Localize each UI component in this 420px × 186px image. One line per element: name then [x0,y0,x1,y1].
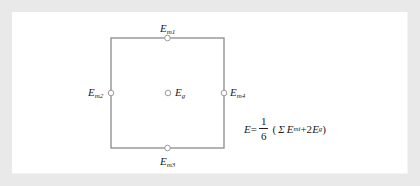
formula-plus: +2 [300,123,312,135]
point-em1-icon [165,35,171,41]
square-diagram [0,0,420,186]
formula-term2: E [312,123,319,135]
fraction-numerator: 1 [259,116,269,129]
formula-equals: = [251,123,257,135]
formula-lhs: E [244,123,251,135]
fraction-denominator: 6 [261,129,267,142]
label-em1: Em1 [160,23,175,36]
formula-term1-sub: mi [293,125,300,133]
label-em4: Em4 [230,87,245,100]
label-em2: Em2 [88,87,103,100]
formula-open-paren: ( [272,123,276,135]
point-em4-icon [221,90,227,96]
formula-close-paren: ) [322,123,326,135]
average-formula: E = 1 6 ( Σ Emi +2 Eg ) [244,116,326,142]
formula-fraction: 1 6 [259,116,269,142]
sum-symbol: Σ [278,123,285,135]
point-eg-icon [165,90,171,96]
point-em3-icon [165,145,171,151]
point-em2-icon [108,90,114,96]
formula-term1: E [287,123,294,135]
label-em3: Em3 [160,156,175,169]
label-eg: Eg [175,87,185,100]
